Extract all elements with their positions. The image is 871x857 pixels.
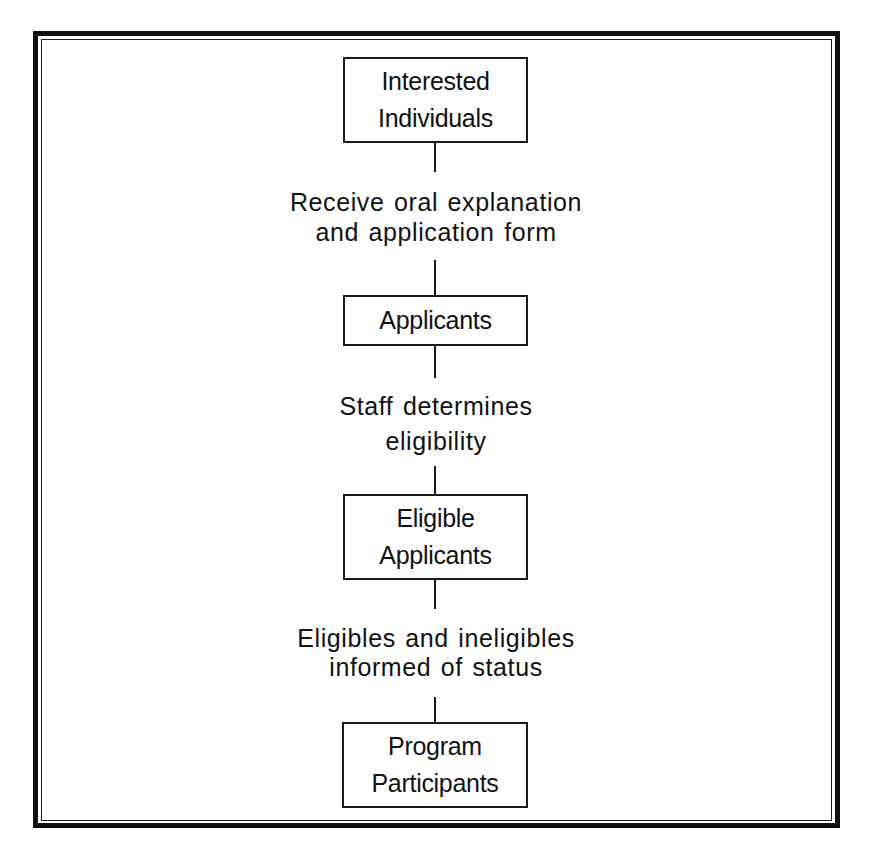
node-label-line: Individuals	[378, 100, 493, 137]
node-eligible-applicants: Eligible Applicants	[343, 494, 528, 580]
node-applicants: Applicants	[343, 295, 528, 346]
connector-line	[434, 346, 436, 378]
edge-label-line: eligibility	[236, 424, 636, 459]
edge-label-line: Staff determines	[236, 389, 636, 424]
node-label-line: Eligible	[396, 500, 474, 537]
node-program-participants: Program Participants	[342, 722, 528, 808]
node-label-line: Program	[388, 728, 482, 765]
connector-line	[434, 143, 436, 172]
connector-line	[434, 697, 436, 722]
edge-label-line: and application form	[236, 217, 636, 247]
connector-line	[434, 466, 436, 494]
edge-label-eligibles-informed: Eligibles and ineligibles informed of st…	[236, 624, 636, 682]
node-label-line: Interested	[381, 63, 489, 100]
connector-line	[434, 260, 436, 295]
edge-label-line: Receive oral explanation	[236, 187, 636, 217]
edge-label-receive-explanation: Receive oral explanation and application…	[236, 187, 636, 247]
edge-label-line: informed of status	[236, 653, 636, 682]
node-label-line: Applicants	[379, 302, 491, 339]
edge-label-line: Eligibles and ineligibles	[236, 624, 636, 653]
node-label-line: Participants	[371, 765, 498, 802]
edge-label-staff-determines: Staff determines eligibility	[236, 389, 636, 459]
node-label-line: Applicants	[379, 537, 491, 574]
connector-line	[434, 580, 436, 609]
node-interested-individuals: Interested Individuals	[343, 57, 528, 143]
